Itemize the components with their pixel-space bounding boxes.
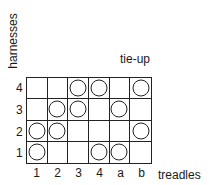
- tie-up-cell: [68, 142, 89, 163]
- tie-up-cell: [27, 142, 48, 163]
- treadle-label: 3: [68, 166, 89, 180]
- tie-circle-icon: [70, 101, 87, 118]
- tie-up-cell: [89, 142, 110, 163]
- tie-circle-icon: [49, 101, 66, 118]
- tie-circle-icon: [49, 122, 66, 139]
- tie-up-cell: [130, 99, 151, 120]
- tie-up-cell: [48, 142, 69, 163]
- tie-up-cell: [68, 121, 89, 142]
- tie-up-cell: [130, 121, 151, 142]
- tie-circle-icon: [28, 144, 45, 161]
- treadle-label: a: [110, 166, 131, 180]
- treadle-label: 2: [47, 166, 68, 180]
- tie-up-cell: [110, 142, 131, 163]
- tie-up-title: tie-up: [120, 52, 150, 66]
- tie-circle-icon: [132, 80, 149, 97]
- tie-circle-icon: [90, 80, 107, 97]
- tie-circle-icon: [70, 80, 87, 97]
- tie-up-cell: [110, 78, 131, 99]
- treadle-label: 4: [89, 166, 110, 180]
- tie-circle-icon: [28, 122, 45, 139]
- tie-up-cell: [110, 121, 131, 142]
- tie-circle-icon: [111, 101, 128, 118]
- tie-up-cell: [48, 78, 69, 99]
- harness-label: 1: [16, 146, 26, 160]
- tie-up-cell: [27, 78, 48, 99]
- tie-up-cell: [27, 121, 48, 142]
- harness-label: 3: [16, 103, 26, 117]
- harnesses-label-text: harnesses: [6, 13, 20, 68]
- treadles-axis-label: treadles: [158, 168, 201, 182]
- tie-up-cell: [48, 99, 69, 120]
- tie-up-cell: [48, 121, 69, 142]
- tie-up-cell: [130, 142, 151, 163]
- tie-up-cell: [68, 99, 89, 120]
- treadle-label: 1: [26, 166, 47, 180]
- tie-circle-icon: [132, 122, 149, 139]
- tie-up-cell: [68, 78, 89, 99]
- tie-up-cell: [27, 99, 48, 120]
- tie-up-cell: [130, 78, 151, 99]
- tie-up-cell: [89, 99, 110, 120]
- tie-circle-icon: [90, 144, 107, 161]
- treadle-label: b: [131, 166, 152, 180]
- harnesses-axis-label: harnesses: [3, 10, 23, 72]
- tie-up-cell: [89, 121, 110, 142]
- harness-label: 4: [16, 81, 26, 95]
- tie-circle-icon: [111, 144, 128, 161]
- tie-up-grid: [26, 77, 152, 164]
- harness-label: 2: [16, 125, 26, 139]
- tie-up-cell: [110, 99, 131, 120]
- tie-up-cell: [89, 78, 110, 99]
